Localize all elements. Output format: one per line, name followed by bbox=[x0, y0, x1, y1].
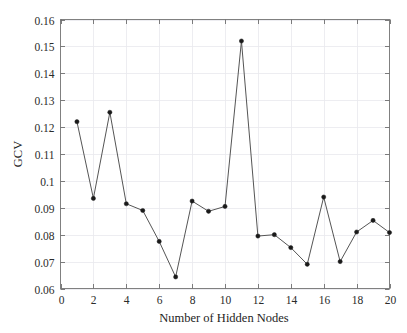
x-tick-label: 12 bbox=[253, 294, 265, 306]
chart-background bbox=[0, 0, 407, 333]
y-tick-label: 0.09 bbox=[34, 203, 54, 215]
x-tick-label: 4 bbox=[124, 294, 130, 306]
data-point-marker bbox=[272, 233, 276, 237]
data-point-marker bbox=[157, 239, 161, 243]
x-tick-label: 8 bbox=[190, 294, 196, 306]
x-tick-label: 20 bbox=[385, 294, 397, 306]
x-tick-label: 18 bbox=[352, 294, 364, 306]
data-point-marker bbox=[305, 262, 309, 266]
data-point-marker bbox=[322, 195, 326, 199]
data-point-marker bbox=[75, 120, 79, 124]
data-point-marker bbox=[91, 196, 95, 200]
chart-figure: 0.060.070.080.090.10.110.120.130.140.150… bbox=[0, 0, 407, 333]
y-tick-label: 0.14 bbox=[34, 68, 54, 80]
data-point-marker bbox=[174, 275, 178, 279]
gcv-vs-hidden-nodes-line-chart: 0.060.070.080.090.10.110.120.130.140.150… bbox=[0, 0, 407, 333]
y-tick-label: 0.1 bbox=[40, 176, 55, 188]
x-tick-label: 10 bbox=[220, 294, 232, 306]
y-tick-label: 0.13 bbox=[34, 95, 54, 107]
data-point-marker bbox=[108, 110, 112, 114]
data-point-marker bbox=[206, 209, 210, 213]
x-tick-label: 16 bbox=[319, 294, 331, 306]
x-tick-label: 0 bbox=[59, 294, 65, 306]
data-point-marker bbox=[371, 218, 375, 222]
data-point-marker bbox=[239, 39, 243, 43]
y-tick-label: 0.16 bbox=[34, 15, 54, 27]
data-point-marker bbox=[190, 199, 194, 203]
x-axis-title: Number of Hidden Nodes bbox=[159, 311, 289, 325]
y-tick-label: 0.12 bbox=[34, 122, 54, 134]
data-point-marker bbox=[223, 204, 227, 208]
y-tick-label: 0.07 bbox=[34, 257, 54, 269]
data-point-marker bbox=[256, 234, 260, 238]
data-point-marker bbox=[387, 230, 391, 234]
x-tick-label: 6 bbox=[157, 294, 163, 306]
data-point-marker bbox=[289, 246, 293, 250]
y-axis-title: GCV bbox=[11, 141, 25, 167]
x-tick-label: 2 bbox=[91, 294, 97, 306]
y-tick-label: 0.06 bbox=[34, 284, 54, 296]
y-tick-label: 0.11 bbox=[35, 149, 55, 161]
data-point-marker bbox=[124, 202, 128, 206]
data-point-marker bbox=[355, 230, 359, 234]
data-point-marker bbox=[338, 260, 342, 264]
data-point-marker bbox=[141, 208, 145, 212]
y-tick-label: 0.15 bbox=[34, 41, 54, 53]
x-tick-label: 14 bbox=[286, 294, 298, 306]
y-tick-label: 0.08 bbox=[34, 230, 54, 242]
